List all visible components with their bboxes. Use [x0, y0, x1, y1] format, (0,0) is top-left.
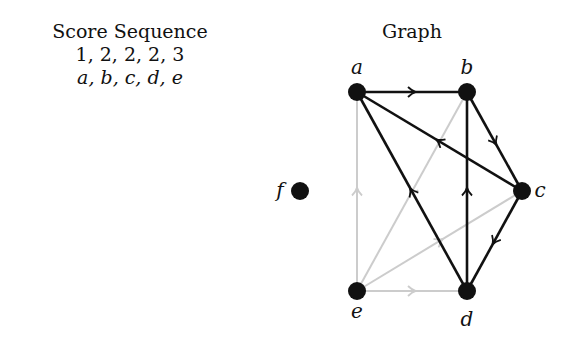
edge-c-a [357, 92, 522, 191]
node-label-d: d [461, 307, 474, 331]
faded-edges [352, 92, 522, 296]
node-d [458, 282, 476, 300]
node-label-b: b [461, 55, 474, 79]
node-a [348, 83, 366, 101]
node-f [291, 182, 309, 200]
node-label-c: c [534, 178, 545, 202]
tournament-graph: abcdef [0, 0, 577, 342]
edge-c-d [467, 191, 522, 291]
main-edges [357, 87, 522, 291]
node-b [458, 83, 476, 101]
node-c [513, 182, 531, 200]
node-e [348, 282, 366, 300]
node-label-a: a [351, 55, 363, 79]
edge-b-c [467, 92, 522, 191]
node-label-f: f [274, 178, 287, 202]
node-label-e: e [351, 299, 363, 323]
